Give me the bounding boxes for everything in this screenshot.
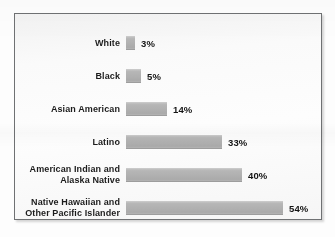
bar-track-white: 3% [126, 28, 321, 58]
bar-row-black: Black 5% [15, 61, 321, 91]
bar-black [126, 69, 141, 83]
bar-label-asian-american: Asian American [15, 104, 126, 115]
bar-label-latino: Latino [15, 137, 126, 148]
bar-row-native-hawaiian-pacific-islander: Native Hawaiian and Other Pacific Island… [15, 193, 321, 223]
bar-latino [126, 135, 222, 149]
bar-value-white: 3% [141, 38, 155, 49]
bar-asian-american [126, 102, 167, 116]
bar-value-black: 5% [147, 71, 161, 82]
bar-track-american-indian-alaska-native: 40% [126, 160, 321, 190]
bar-value-native-hawaiian-pacific-islander: 54% [289, 203, 308, 214]
bar-label-american-indian-alaska-native: American Indian and Alaska Native [15, 164, 126, 186]
bar-rows: White 3% Black 5% Asian Americ [15, 14, 321, 219]
bar-track-native-hawaiian-pacific-islander: 54% [126, 193, 321, 223]
bar-label-white: White [15, 38, 126, 49]
bar-white [126, 36, 135, 50]
bar-label-native-hawaiian-pacific-islander: Native Hawaiian and Other Pacific Island… [15, 197, 126, 219]
chart-page: White 3% Black 5% Asian Americ [0, 0, 335, 237]
bar-track-black: 5% [126, 61, 321, 91]
bar-track-latino: 33% [126, 127, 321, 157]
bar-row-white: White 3% [15, 28, 321, 58]
bar-row-american-indian-alaska-native: American Indian and Alaska Native 40% [15, 160, 321, 190]
bar-row-latino: Latino 33% [15, 127, 321, 157]
chart-plot-area: White 3% Black 5% Asian Americ [15, 14, 321, 219]
bar-value-american-indian-alaska-native: 40% [248, 170, 267, 181]
bar-american-indian-alaska-native [126, 168, 242, 182]
bar-value-latino: 33% [228, 137, 247, 148]
bar-label-black: Black [15, 71, 126, 82]
bar-track-asian-american: 14% [126, 94, 321, 124]
bar-row-asian-american: Asian American 14% [15, 94, 321, 124]
bar-native-hawaiian-pacific-islander [126, 201, 283, 215]
chart-frame: White 3% Black 5% Asian Americ [14, 13, 322, 220]
bar-value-asian-american: 14% [173, 104, 192, 115]
